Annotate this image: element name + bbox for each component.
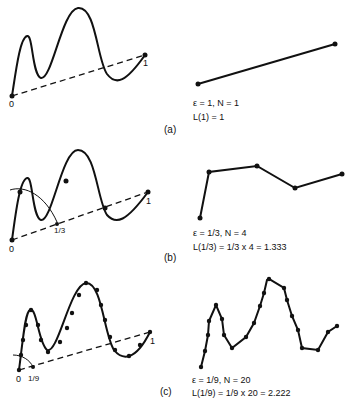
length-label-c: L(1/9) = 1/9 x 20 = 2.222 [192, 388, 291, 398]
caption-b: (b) [164, 252, 176, 263]
caption-a: (a) [164, 124, 176, 135]
epsilon-label-b: ε = 1/3, N = 4 [193, 228, 247, 238]
tick-0-a: 0 [9, 99, 14, 109]
tick-third-b: 1/3 [54, 226, 65, 235]
polyline-a [198, 44, 335, 84]
epsilon-label-c: ε = 1/9, N = 20 [192, 375, 251, 385]
length-label-a: L(1) = 1 [193, 112, 224, 122]
polyline-b [200, 166, 342, 218]
polyline-c [201, 279, 337, 367]
tick-1-c: 1 [150, 336, 155, 346]
tick-1-b: 1 [146, 196, 151, 206]
tick-1-a: 1 [143, 58, 148, 68]
tick-ninth-c: 1/9 [28, 374, 39, 383]
arc-c [13, 355, 33, 367]
caption-c: (c) [160, 386, 172, 397]
curve-b [12, 150, 148, 240]
length-label-b: L(1/3) = 1/3 x 4 = 1.333 [193, 242, 287, 252]
curve-a [12, 8, 145, 96]
epsilon-label-a: ε = 1, N = 1 [193, 98, 239, 108]
tick-0-b: 0 [9, 244, 14, 254]
chord-a [12, 55, 145, 96]
figure-graphics [0, 0, 349, 402]
chord-c [19, 332, 150, 370]
tick-0-c: 0 [16, 374, 21, 384]
